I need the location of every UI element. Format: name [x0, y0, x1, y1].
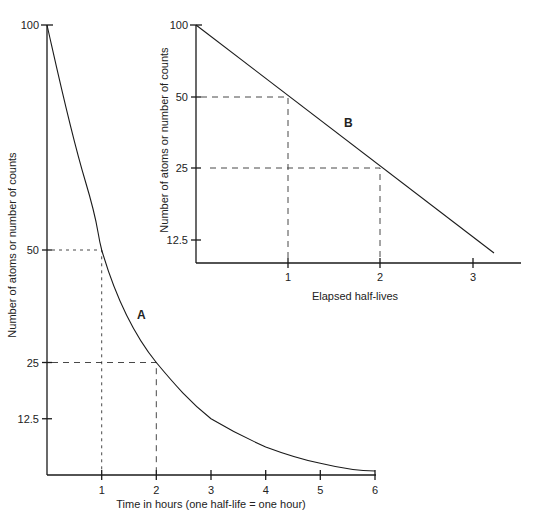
chart-a-x-tick-3: 3 — [208, 484, 214, 496]
chart-a-x-ticks: 1 2 3 4 5 6 — [99, 470, 378, 496]
chart-b-y-ticks: 100 50 25 12.5 — [167, 19, 202, 246]
half-life-figure: 100 50 25 12.5 1 2 3 4 5 6 A Time in hou… — [0, 0, 534, 523]
chart-b-y-tick-100: 100 — [170, 19, 188, 31]
chart-a: 100 50 25 12.5 1 2 3 4 5 6 A Time in hou… — [6, 19, 378, 510]
chart-a-x-tick-2: 2 — [153, 484, 159, 496]
chart-b-x-tick-1: 1 — [285, 271, 291, 283]
chart-b-guide-1-halflife — [201, 97, 288, 258]
chart-b-y-tick-25: 25 — [176, 162, 188, 174]
chart-a-y-tick-25: 25 — [27, 357, 39, 369]
chart-b-x-tick-2: 2 — [377, 271, 383, 283]
chart-a-y-ticks: 100 50 25 12.5 — [18, 19, 53, 425]
chart-b-guide-2-halflives — [210, 168, 380, 258]
chart-a-guide-2-halflives — [52, 363, 156, 471]
chart-a-y-tick-50: 50 — [27, 244, 39, 256]
chart-b-y-tick-12-5: 12.5 — [167, 234, 188, 246]
chart-a-y-tick-12-5: 12.5 — [18, 413, 39, 425]
chart-a-x-axis-label: Time in hours (one half-life = one hour) — [116, 498, 305, 510]
chart-a-guide-1-halflife — [52, 250, 102, 470]
chart-b: 100 50 25 12.5 1 2 3 B Elapsed half-live… — [158, 19, 521, 302]
chart-b-curve-label: B — [344, 116, 353, 130]
chart-b-decay-line — [196, 25, 494, 253]
chart-b-y-axis-label: Number of atoms or number of counts — [158, 47, 170, 233]
chart-a-y-axis-label: Number of atoms or number of counts — [6, 152, 18, 338]
chart-b-y-tick-50: 50 — [176, 91, 188, 103]
chart-a-x-tick-6: 6 — [372, 484, 378, 496]
chart-b-x-tick-3: 3 — [470, 271, 476, 283]
chart-a-x-tick-5: 5 — [317, 484, 323, 496]
chart-b-x-axis-label: Elapsed half-lives — [312, 290, 399, 302]
chart-a-curve-label: A — [137, 308, 146, 322]
chart-a-decay-curve — [47, 25, 375, 471]
chart-a-x-tick-1: 1 — [99, 484, 105, 496]
chart-b-x-ticks: 1 2 3 — [285, 258, 476, 283]
chart-a-y-tick-100: 100 — [21, 19, 39, 31]
chart-a-x-tick-4: 4 — [263, 484, 269, 496]
